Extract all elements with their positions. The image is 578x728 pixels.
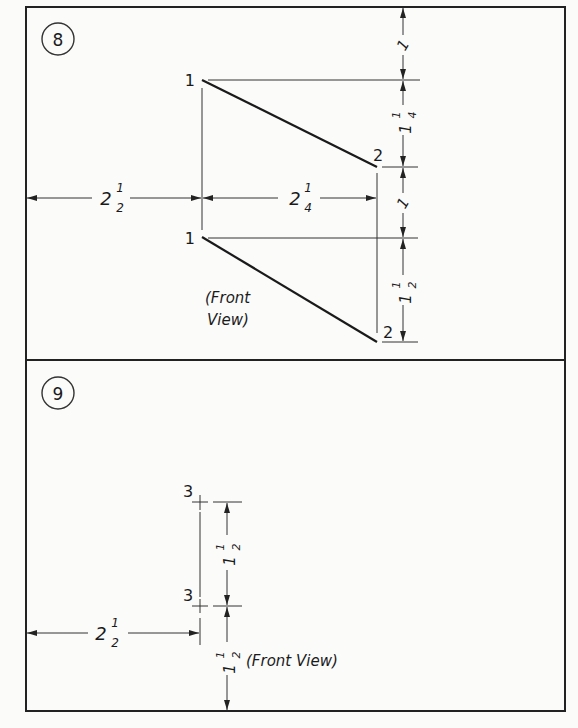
svg-text:1: 1 [390,112,403,119]
svg-text:2: 2 [230,652,243,659]
view-label: (Front [205,289,251,307]
svg-text:1: 1 [214,544,227,551]
svg-text:2: 2 [289,188,300,209]
svg-text:2: 2 [100,188,111,209]
svg-text:1: 1 [116,181,124,195]
point-label: 1 [185,71,195,90]
svg-text:1: 1 [221,556,239,566]
svg-text:1: 1 [111,616,119,630]
point-label: 3 [183,482,193,501]
svg-text:4: 4 [304,201,312,215]
top-view-line [202,80,377,167]
dimension-2-1-2: 2 1 2 [100,181,124,215]
point-label: 2 [383,323,393,342]
svg-text:1: 1 [221,664,239,674]
dimension-1-1-2: 1 1 2 [214,544,243,566]
point-label: 2 [373,146,383,165]
problem-9-panel: 9 3 3 1 1 2 1 1 2 [27,377,338,710]
point-label: 3 [183,586,193,605]
problem-number: 9 [53,384,64,404]
svg-text:1: 1 [304,181,312,195]
svg-text:1: 1 [214,652,227,659]
problem-number: 8 [53,30,64,50]
dimension-2-1-4: 2 1 4 [289,181,312,215]
point-label: 1 [185,229,195,248]
svg-text:1: 1 [397,124,415,134]
svg-text:2: 2 [406,282,419,289]
dimension-1-1-2: 1 1 2 [390,282,419,304]
drawing-sheet: 8 1 2 1 2 2 1 2 2 1 4 [0,0,578,728]
svg-text:2: 2 [111,636,119,650]
svg-text:1: 1 [390,282,403,289]
dimension-1-1-4: 1 1 4 [390,112,419,134]
svg-text:2: 2 [230,544,243,551]
svg-text:4: 4 [406,112,419,119]
svg-text:2: 2 [116,201,124,215]
dimension-1: 1 [393,36,413,53]
view-label: (Front View) [246,652,338,670]
dimension-1-1-2: 1 1 2 [214,652,243,674]
dimension-1: 1 [393,194,413,211]
svg-text:1: 1 [397,294,415,304]
dimension-2-1-2: 2 1 2 [95,616,119,650]
svg-text:2: 2 [95,623,106,644]
view-label: View) [207,311,249,329]
problem-8-panel: 8 1 2 1 2 2 1 2 2 1 4 [27,8,420,342]
